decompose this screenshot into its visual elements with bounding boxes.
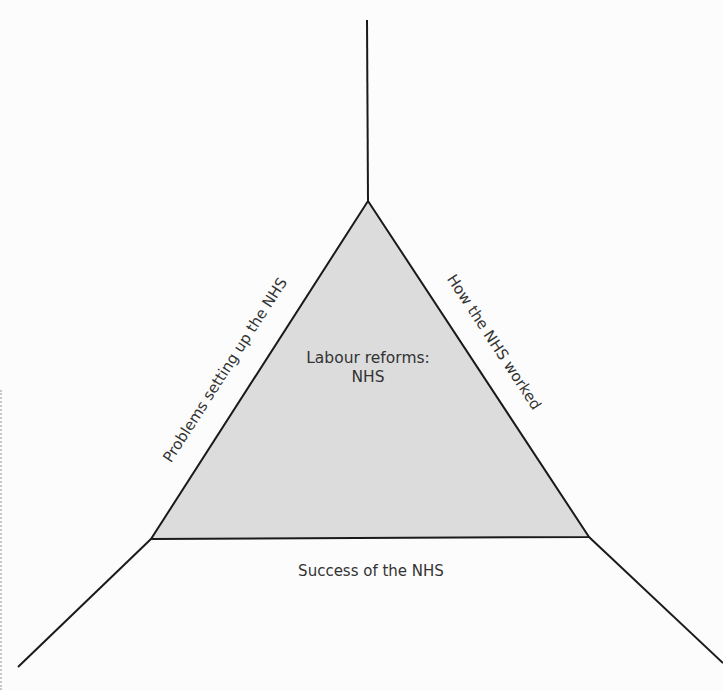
bottom-left-divider-line [18,539,151,667]
top-divider-line [367,20,368,201]
triangle-diagram [0,0,723,690]
bottom-right-divider-line [589,537,723,663]
bottom-side-label: Success of the NHS [298,562,444,580]
center-topic-line2: NHS [268,368,468,387]
center-topic-line1: Labour reforms: [268,349,468,368]
center-topic-label: Labour reforms: NHS [268,349,468,387]
